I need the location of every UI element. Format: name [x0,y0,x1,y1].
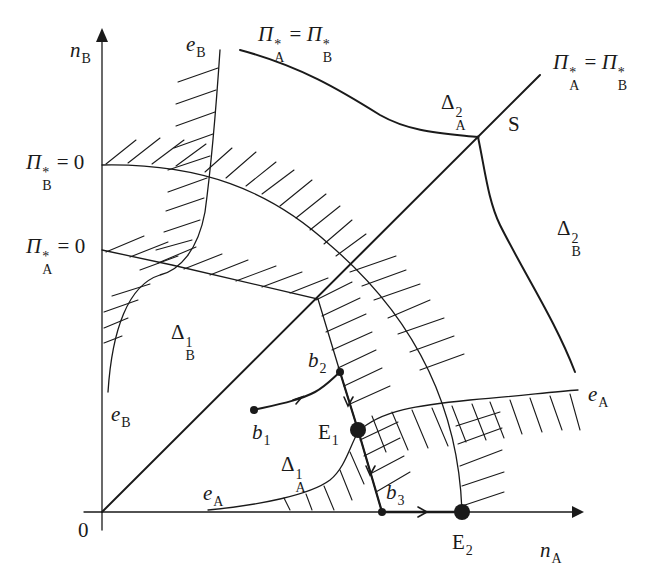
origin-label: 0 [78,520,89,541]
point-b3 [378,508,386,516]
piA-zero-curve [102,250,382,512]
eA-bottom-label: eA [203,483,223,509]
x-axis-label: nA [540,540,562,566]
y-axis-arrow-icon [96,28,108,42]
point-b2-label: b2 [308,350,327,376]
equal-profit-top-label: Π*A = Π*B [258,24,332,65]
eB-hatching [104,68,218,343]
point-b2 [336,368,344,376]
point-E1 [350,422,366,438]
point-S-label: S [508,114,520,135]
piB-zero-hatching [106,138,504,506]
piA-zero-label: Π*A = 0 [26,236,85,277]
eB-bottom-label: eB [111,404,131,430]
piB-zero-label: Π*B = 0 [26,152,84,193]
equal-profit-diag-label: Π*A = Π*B [553,52,627,93]
point-S [477,136,480,139]
region-delta-B1: Δ1B [171,322,195,363]
point-E2-label: E2 [452,532,473,558]
point-b1 [250,406,258,414]
eA-hatching [284,394,580,510]
point-b3-label: b3 [386,482,405,508]
point-E1-label: E1 [318,422,339,448]
point-b1-label: b1 [252,422,271,448]
eB-curve [108,50,220,392]
trajectory-b1-b2 [254,372,340,410]
region-delta-B2: Δ2B [557,218,581,259]
eA-right-label: eA [588,384,608,410]
point-E2 [454,504,470,520]
x-axis-arrow-icon [572,506,584,518]
trajectory-E1-b3 [358,430,382,512]
eB-top-label: eB [186,34,206,60]
region-delta-A2: Δ2A [441,92,466,133]
region-delta-A1: Δ1A [281,454,306,495]
y-axis-label: nB [70,40,91,66]
